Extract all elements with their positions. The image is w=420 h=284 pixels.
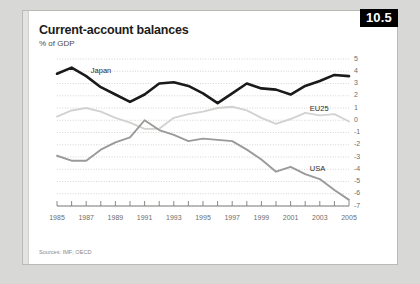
chart-card: 10.5 Current-account balances % of GDP 5… — [22, 10, 398, 265]
x-axis-label: 1995 — [188, 214, 218, 221]
chart-x-axis-labels: 1985198719891991199319951997199920012003… — [23, 11, 397, 264]
x-axis-label: 1989 — [100, 214, 130, 221]
x-axis-label: 2003 — [305, 214, 335, 221]
x-axis-label: 1999 — [246, 214, 276, 221]
x-axis-label: 1991 — [130, 214, 160, 221]
chart-source-note: Sources: IMF; OECD — [39, 249, 92, 255]
x-axis-label: 1993 — [159, 214, 189, 221]
x-axis-label: 1997 — [217, 214, 247, 221]
x-axis-label: 1987 — [71, 214, 101, 221]
x-axis-label: 2001 — [276, 214, 306, 221]
x-axis-label: 1985 — [42, 214, 72, 221]
x-axis-label: 2005 — [334, 214, 364, 221]
